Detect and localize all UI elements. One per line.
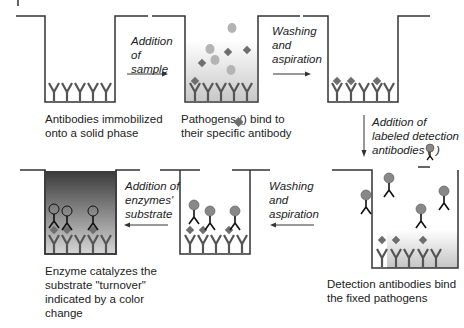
capture-antibody-icon <box>88 83 98 101</box>
step-3-line-3: antibodies ( <box>372 144 433 156</box>
capture-antibody-icon <box>237 235 247 253</box>
step-5-line-1: Addition of <box>124 180 181 192</box>
labeled-antibody-head-icon <box>439 186 449 196</box>
capture-antibody-icon <box>384 83 394 101</box>
arrow-right-icon <box>273 72 311 77</box>
step-5-line-2: enzymes' <box>125 194 174 206</box>
pathogen-diamond-icon <box>347 77 355 85</box>
pathogen-diamond-icon <box>333 77 341 85</box>
labeled-antibody-head-icon <box>205 206 215 216</box>
step-4-line-3: aspiration <box>269 208 319 220</box>
capture-antibody-icon <box>346 83 356 101</box>
elisa-diagram: Antibodies immobilized onto a solid phas… <box>0 0 464 328</box>
labeled-antibody-icon <box>189 210 199 224</box>
caption-well-2-line-1a: Pathogens ( <box>181 113 243 125</box>
capture-antibody-icon <box>49 83 59 101</box>
caption-well-6-line-4: change <box>45 307 83 319</box>
labeled-antibody-head-icon <box>384 173 394 183</box>
capture-antibody-icon <box>185 235 195 253</box>
sample-particle-icon <box>206 44 215 54</box>
pathogen-diamond-icon <box>378 236 386 244</box>
labeled-antibody-icon <box>230 216 240 230</box>
capture-antibody-icon <box>101 83 111 101</box>
step-5-line-3: substrate <box>125 208 172 220</box>
capture-antibody-icon <box>377 249 387 267</box>
caption-well-2-line-1b: ) bind to <box>243 113 285 125</box>
caption-well-6-line-1: Enzyme catalyzes the <box>45 265 157 277</box>
pathogen-diamond-icon <box>186 226 194 234</box>
labeled-antibody-head-icon <box>189 200 199 210</box>
labeled-antibody-icon <box>205 216 215 230</box>
step-2-line-2: and <box>272 39 292 51</box>
step-4-line-2: and <box>269 194 289 206</box>
labeled-antibody-head-icon <box>230 206 240 216</box>
sample-particle-icon <box>211 55 220 65</box>
step-1-line-2: of <box>131 49 142 61</box>
arrow-left-icon <box>270 223 314 228</box>
step-2-line-3: aspiration <box>272 53 322 65</box>
caption-well-4-line-2: the fixed pathogens <box>327 292 428 304</box>
caption-well-6-line-2: substrate "turnover" <box>45 279 146 291</box>
step-1-line-1: Addition <box>130 35 173 47</box>
step-3-line-2: labeled detection <box>372 130 459 142</box>
caption-well-2-line-2: their specific antibody <box>181 127 292 139</box>
labeled-antibody-head-icon <box>361 190 371 200</box>
caption-well-4-line-1: Detection antibodies bind <box>327 278 456 290</box>
step-4-line-1: Washing <box>269 180 314 192</box>
arrow-left-icon <box>124 223 168 228</box>
sample-particle-icon <box>227 65 236 75</box>
capture-antibody-icon <box>211 235 221 253</box>
labeled-antibody-head-icon <box>416 204 426 214</box>
caption-well-1-line-1: Antibodies immobilized <box>45 113 163 125</box>
step-2-line-1: Washing <box>272 25 317 37</box>
capture-antibody-icon <box>62 83 72 101</box>
sample-particle-icon <box>228 23 237 33</box>
caption-well-1-line-2: onto a solid phase <box>45 127 138 139</box>
caption-well-6-line-3: indicated by a color <box>45 293 144 305</box>
capture-antibody-icon <box>198 235 208 253</box>
arrow-down-icon <box>362 115 367 157</box>
step-3-line-1: Addition of <box>371 116 428 128</box>
labeled-antibody-icon <box>361 200 371 214</box>
labeled-antibody-icon <box>384 183 394 197</box>
capture-antibody-icon <box>359 83 369 101</box>
pathogen-diamond-icon <box>373 77 381 85</box>
capture-antibody-icon <box>372 83 382 101</box>
capture-antibody-icon <box>332 83 342 101</box>
capture-antibody-icon <box>224 235 234 253</box>
capture-antibody-icon <box>75 83 85 101</box>
step-3-suffix: ) <box>434 144 440 156</box>
